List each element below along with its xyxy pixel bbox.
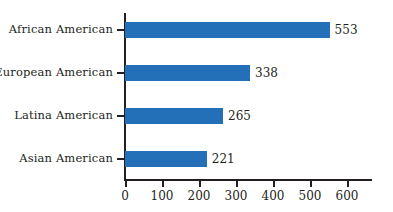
category-label: European American bbox=[0, 67, 113, 79]
x-axis-tick bbox=[347, 181, 349, 187]
x-axis-tick-label: 100 bbox=[151, 189, 174, 203]
category-label-row: Latina American bbox=[0, 108, 125, 124]
x-axis-tick-label: 0 bbox=[121, 189, 129, 203]
bar-value-label: 553 bbox=[335, 22, 358, 38]
category-tick-icon bbox=[117, 29, 125, 31]
bar bbox=[125, 108, 223, 124]
category-tick-icon bbox=[117, 72, 125, 74]
x-axis-tick bbox=[310, 181, 312, 187]
x-axis-tick-label: 200 bbox=[188, 189, 211, 203]
bar bbox=[125, 22, 330, 38]
category-tick-icon bbox=[117, 115, 125, 117]
x-axis-tick bbox=[236, 181, 238, 187]
category-label: Latina American bbox=[14, 110, 113, 122]
bar bbox=[125, 65, 250, 81]
bar-value-label: 265 bbox=[228, 108, 251, 124]
x-axis-tick bbox=[162, 181, 164, 187]
x-axis-tick-label: 600 bbox=[336, 189, 359, 203]
category-label: Asian American bbox=[19, 153, 113, 165]
category-label: African American bbox=[9, 24, 113, 36]
x-axis-tick-label: 300 bbox=[225, 189, 248, 203]
category-label-row: European American bbox=[0, 65, 125, 81]
x-axis-tick-label: 500 bbox=[299, 189, 322, 203]
bar bbox=[125, 151, 207, 167]
x-axis-tick-label: 400 bbox=[262, 189, 285, 203]
x-axis-tick bbox=[273, 181, 275, 187]
bar-value-label: 338 bbox=[255, 65, 278, 81]
bar-chart: African American European American Latin… bbox=[0, 0, 393, 212]
category-label-row: African American bbox=[0, 22, 125, 38]
x-axis-tick bbox=[125, 181, 127, 187]
category-label-row: Asian American bbox=[0, 151, 125, 167]
bar-value-label: 221 bbox=[212, 151, 235, 167]
category-tick-icon bbox=[117, 158, 125, 160]
x-axis-tick bbox=[199, 181, 201, 187]
